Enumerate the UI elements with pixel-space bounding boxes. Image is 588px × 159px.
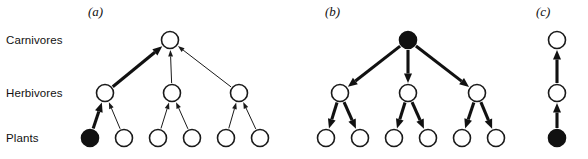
edge-a-h3-to-a-c1 (183, 50, 231, 87)
node-b-p6-open (488, 130, 505, 147)
edge-b-h3-to-b-p5 (468, 102, 474, 119)
arrowhead-a-p4-to-a-h2 (176, 102, 181, 109)
panel-label-c: (c) (536, 4, 550, 20)
panel-c (549, 32, 566, 147)
node-b-p4-open (420, 130, 437, 147)
food-web-graph-layer (0, 0, 588, 159)
trophic-label-carnivores: Carnivores (6, 34, 63, 46)
arrowhead-a-p3-to-a-h2 (165, 103, 170, 110)
edge-a-p5-to-a-h3 (229, 109, 235, 129)
arrowhead-a-p1-to-a-h1 (95, 102, 103, 112)
node-a-p5-open (218, 130, 235, 147)
arrowhead-a-p2-to-a-h1 (109, 102, 114, 109)
node-b-p3-open (386, 130, 403, 147)
node-a-h3-open (231, 85, 248, 102)
edge-b-c1-to-b-h3 (416, 46, 462, 81)
panel-label-a: (a) (88, 4, 103, 20)
panel-b-nodes (318, 32, 505, 147)
node-b-p1-open (318, 130, 335, 147)
edge-a-p1-to-a-h1 (93, 112, 99, 129)
arrowhead-c-p1-to-c-h1 (553, 103, 561, 113)
node-b-p5-open (454, 130, 471, 147)
panel-b (318, 32, 505, 147)
node-b-h2-open (400, 85, 417, 102)
panel-label-b: (b) (325, 4, 340, 20)
arrowhead-a-h3-to-a-c1 (178, 46, 185, 52)
food-web-figure: CarnivoresHerbivoresPlants (a)(b)(c) (0, 0, 588, 159)
node-a-p2-open (116, 130, 133, 147)
node-a-h2-open (164, 85, 181, 102)
node-b-c1-filled (400, 32, 417, 49)
node-a-p3-open (150, 130, 167, 147)
trophic-label-herbivores: Herbivores (6, 87, 63, 99)
node-a-h1-open (97, 85, 114, 102)
edge-b-h1-to-b-p1 (332, 103, 337, 120)
edge-a-p6-to-a-h3 (246, 108, 256, 129)
node-a-p4-open (184, 130, 201, 147)
node-c-c1-open (549, 32, 566, 49)
node-b-p2-open (352, 130, 369, 147)
node-b-h1-open (332, 85, 349, 102)
edge-b-h2-to-b-p3 (400, 103, 405, 120)
node-b-h3-open (469, 85, 486, 102)
trophic-label-plants: Plants (6, 132, 39, 144)
node-a-p6-open (252, 130, 269, 147)
edge-a-p3-to-a-h2 (161, 109, 167, 129)
arrowhead-b-h3-to-b-p5 (464, 118, 472, 128)
edge-a-h1-to-a-c1 (113, 52, 155, 86)
edge-b-h3-to-b-p6 (481, 102, 489, 120)
arrowhead-c-h1-to-c-c1 (553, 50, 561, 60)
arrowhead-b-c1-to-b-h2 (404, 74, 412, 84)
edge-b-c1-to-b-h1 (355, 46, 400, 81)
arrowhead-a-h2-to-a-c1 (168, 50, 173, 57)
panel-c-nodes (549, 32, 566, 147)
node-c-p1-filled (549, 130, 566, 147)
edge-b-h1-to-b-p2 (344, 102, 352, 120)
edge-b-h2-to-b-p4 (412, 102, 420, 120)
arrowhead-a-p6-to-a-h3 (243, 102, 248, 109)
arrowhead-a-p5-to-a-h3 (232, 103, 237, 110)
arrowhead-b-h2-to-b-p3 (396, 118, 404, 128)
edge-a-h2-to-a-c1 (171, 56, 172, 83)
edge-a-p2-to-a-h1 (111, 108, 120, 129)
edge-a-p4-to-a-h2 (179, 108, 188, 129)
panel-a (82, 32, 269, 147)
node-a-p1-filled (82, 130, 99, 147)
node-c-h1-open (549, 85, 566, 102)
panel-a-nodes (82, 32, 269, 147)
node-a-c1-open (162, 32, 179, 49)
arrowhead-b-h1-to-b-p1 (328, 118, 336, 128)
